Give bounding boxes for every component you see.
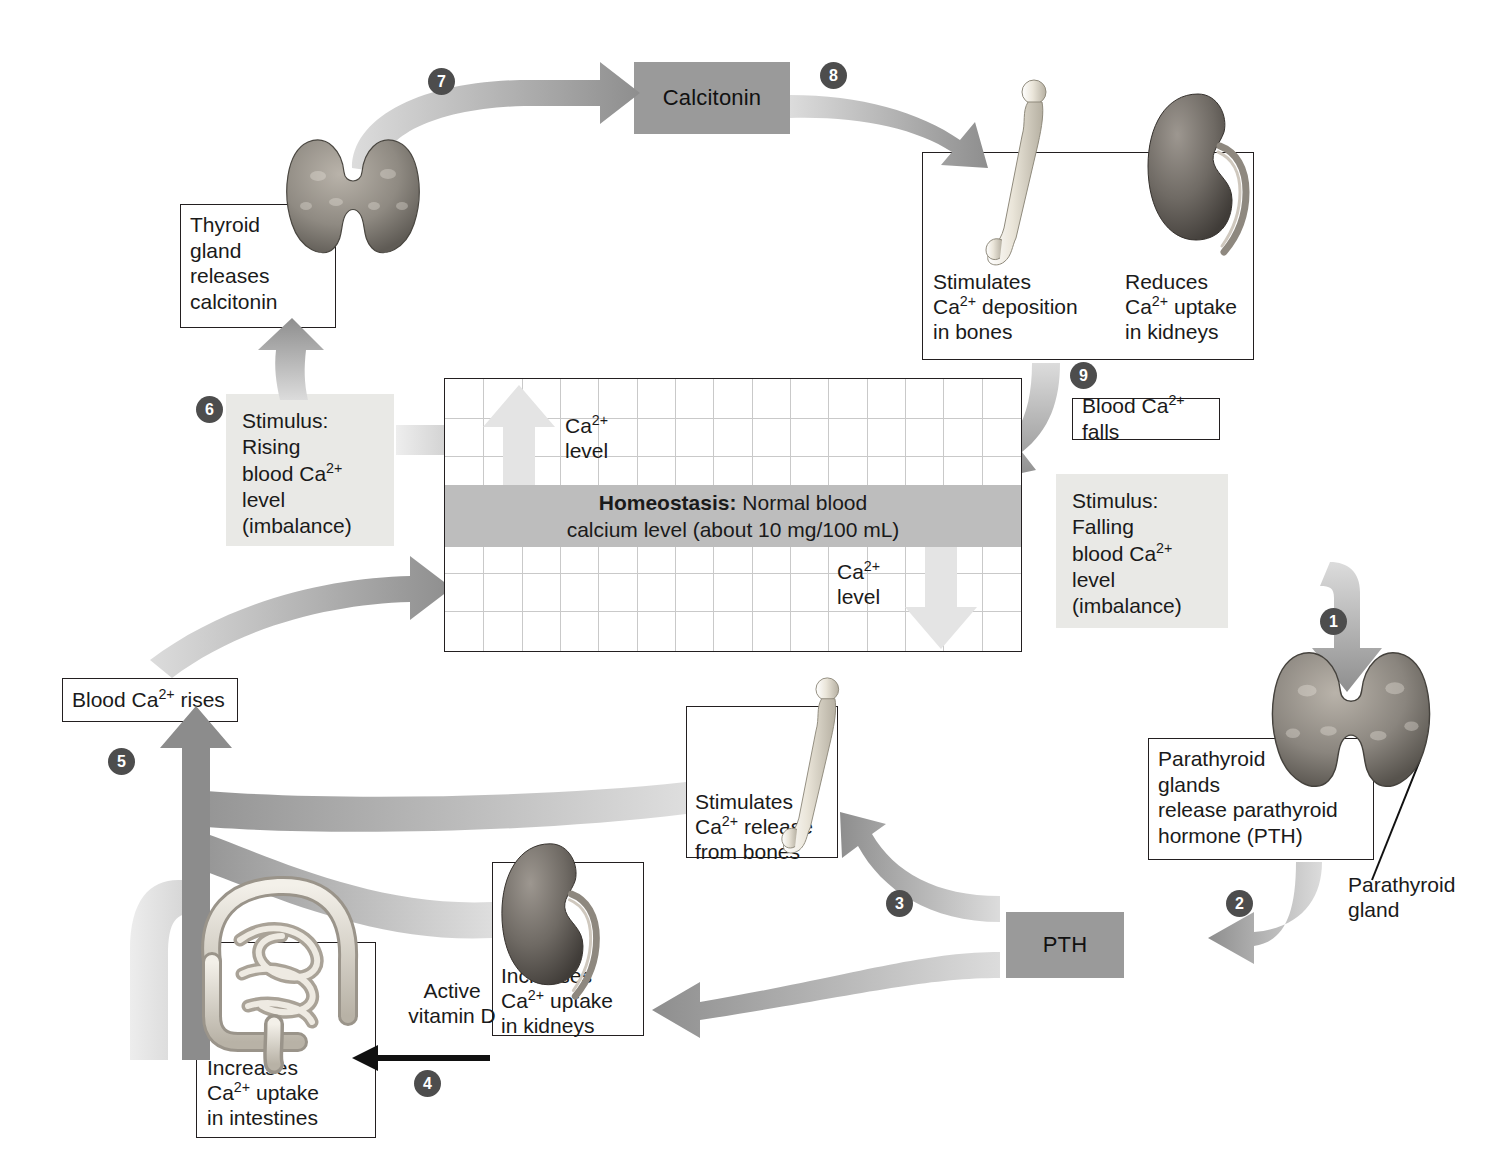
thyroid-gland-illustration [278,136,428,271]
ribbon-bone-to-blood-rises [196,782,686,832]
step-badge-8: 8 [820,62,847,89]
ca-level-rising-arrow-icon [479,383,559,495]
step-badge-2: 2 [1226,890,1253,917]
step-badge-1: 1 [1320,608,1347,635]
ribbon-rising-stimulus [396,425,444,455]
homeostasis-panel: Ca2+ level Ca2+ level Homeostasis: Norma… [444,378,1022,652]
kidney-illustration-bottom [494,838,614,1004]
ca-level-label-top: Ca2+ level [565,413,608,463]
step-badge-4: 4 [414,1070,441,1097]
step-badge-7: 7 [428,68,455,95]
femur-bone-illustration-bottom [772,676,858,856]
parathyroid-gland-illustration [1262,648,1440,808]
arrow-2-parathyroid-to-pth [1208,862,1322,964]
step-badge-5: 5 [108,748,135,775]
step-badge-3: 3 [886,890,913,917]
arrow-blood-rises-to-homeostasis [150,556,452,678]
femur-bone-illustration-top [978,78,1064,268]
ca-level-label-bottom: Ca2+ level [837,559,880,609]
arrow-3-pth-to-bone [840,812,1000,922]
step-badge-6: 6 [196,396,223,423]
arrow-8-calcitonin-to-targets [790,95,988,168]
calcium-homeostasis-diagram: Ca2+ level Ca2+ level Homeostasis: Norma… [0,0,1508,1167]
arrow-3-pth-to-kidney [652,952,1000,1038]
intestines-illustration [178,866,378,1066]
kidney-illustration-top [1140,88,1264,260]
step-badge-9: 9 [1070,362,1097,389]
arrow-6-up-to-thyroid-box [258,318,324,400]
ca-level-falling-arrow-icon [901,541,981,651]
homeostasis-normal-range-band: Homeostasis: Normal blood calcium level … [445,485,1021,547]
